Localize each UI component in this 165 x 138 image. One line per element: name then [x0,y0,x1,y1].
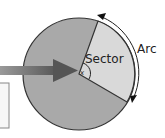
sector-label: Sector [85,52,124,66]
pointer-arrow-shaft [0,66,58,75]
angle-label: x [79,69,85,77]
side-box [0,83,9,128]
arc-arrowhead-bottom [130,95,137,103]
circle-sector-diagram: x Sector Arc [0,0,165,138]
arc-arrowhead-top [97,13,106,20]
arc-label: Arc [137,42,156,56]
